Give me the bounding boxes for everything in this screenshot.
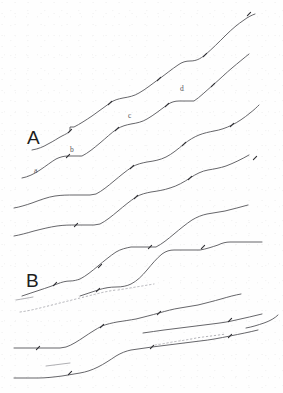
figure-root: ABabcd <box>0 0 283 393</box>
trace-line <box>20 290 116 312</box>
trace-canvas <box>0 0 283 393</box>
trace-line <box>80 242 262 296</box>
segment-label-b: b <box>70 146 74 154</box>
segment-label-a: a <box>34 167 37 175</box>
panel-label-a: A <box>27 128 40 147</box>
trace-line <box>22 54 249 178</box>
trace-tick-marker <box>230 123 233 126</box>
trace-tick-marker <box>203 53 206 56</box>
trace-tick-marker <box>134 195 137 198</box>
trace-line <box>14 105 259 208</box>
trace-tick-marker <box>157 77 160 80</box>
panel-label-b: B <box>26 271 39 290</box>
trace-line <box>16 297 33 300</box>
trace-line <box>46 363 70 366</box>
trace-tick-marker <box>211 83 214 86</box>
trace-line <box>14 330 258 378</box>
trace-tick-marker <box>165 103 168 106</box>
trace-line <box>118 284 154 290</box>
trace-tick-marker <box>201 245 204 248</box>
trace-tick-marker <box>253 156 256 159</box>
trace-tick-marker <box>108 101 111 104</box>
trace-tick-marker <box>247 12 250 15</box>
trace-tick-marker <box>182 142 185 145</box>
trace-line <box>143 314 262 333</box>
tick-marks-group <box>36 12 256 374</box>
trace-tick-marker <box>115 127 118 130</box>
trace-tick-marker <box>188 176 191 179</box>
trace-tick-marker <box>130 165 133 168</box>
segment-label-c: c <box>128 112 131 120</box>
traces-group <box>14 14 278 378</box>
trace-line <box>155 334 226 345</box>
segment-label-d: d <box>180 85 184 93</box>
